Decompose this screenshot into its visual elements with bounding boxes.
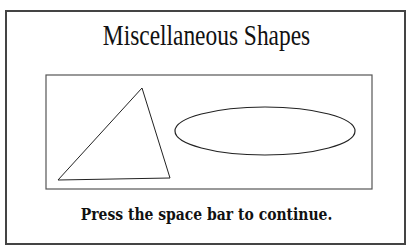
triangle-shape xyxy=(58,88,170,180)
shapes-box xyxy=(46,75,372,189)
continue-prompt: Press the space bar to continue. xyxy=(37,204,376,224)
ellipse-shape xyxy=(175,107,355,155)
